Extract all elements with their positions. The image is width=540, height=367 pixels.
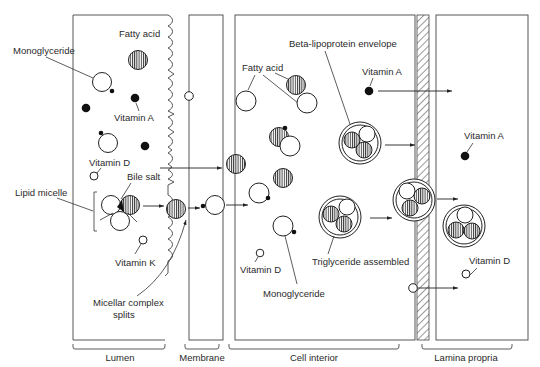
basement-membrane [417,15,429,340]
leader-line [135,244,141,254]
leader-line [467,143,473,152]
vitamin-a-molecule [82,104,91,113]
label-monoglyceride-cell: Monoglyceride [263,288,325,299]
vitamin-a-molecule [461,152,470,161]
monoglyceride-head-dot [99,131,104,136]
vitamin-d-molecule [185,92,194,101]
micelle-bracket [94,192,97,231]
monoglyceride-molecule [111,212,130,231]
monoglyceride-head-dot [201,204,206,209]
fatty-acid-molecule [274,169,293,188]
label-triglyceride-assembled: Triglyceride assembled [312,256,409,267]
leader-line [325,51,351,127]
label-monoglyceride-lumen: Monoglyceride [13,45,75,56]
leader-line [248,75,255,90]
monoglyceride-head-dot [283,126,288,131]
region-label-cell-interior: Cell interior [290,352,338,363]
label-fatty-acid-lumen: Fatty acid [119,28,160,39]
leader-line [285,236,297,284]
monoglyceride-head-dot [110,89,115,94]
vitamin-a-molecule [365,87,374,96]
membrane-region [189,15,223,340]
region-label-lamina-propria: Lamina propria [434,352,498,363]
label-bile-salt: Bile salt [127,171,161,182]
brush-border [165,15,174,276]
monoglyceride-head-dot [292,230,297,235]
leader-line [370,78,373,86]
label-vitamin-d-lumen: Vitamin D [89,157,130,168]
chylomicron [339,122,381,164]
label-vitamin-k: Vitamin K [115,257,156,268]
label-vitamin-a-lumen: Vitamin A [114,112,155,123]
label-vitamin-a-cell: Vitamin A [362,66,403,77]
label-beta-lipoprotein: Beta-lipoprotein envelope [289,38,397,49]
triglyceride-cluster [319,196,361,238]
label-vitamin-d-lamina: Vitamin D [469,255,510,266]
leader-line [328,236,334,254]
lipid-micelle [100,196,140,231]
lipid-absorption-diagram: Lumen Membrane Cell interior Lamina prop… [0,0,540,367]
label-lipid-micelle: Lipid micelle [15,187,67,198]
label-splits: splits [113,309,135,320]
chylomicron-lamina [443,205,485,247]
label-vitamin-d-cell: Vitamin D [240,264,281,275]
region-label-membrane: Membrane [179,352,224,363]
region-label-lumen: Lumen [105,352,134,363]
monoglyceride-molecule [206,196,225,215]
vitamin-a-molecule [141,142,150,151]
fatty-acid-molecule [227,155,246,174]
monoglyceride-molecule [236,91,256,111]
vitamin-d-molecule [90,172,98,180]
leader-line [46,57,93,78]
monoglyceride-molecule [297,93,317,113]
chylomicron-crossing [393,179,435,221]
leader-line [255,257,258,262]
vitamin-d-molecule [256,249,264,257]
fatty-acid-molecule [129,51,148,70]
monoglyceride-molecule [280,136,300,156]
vitamin-a-molecule [131,94,140,103]
vitamin-k-molecule [139,236,147,244]
leader-line [275,73,290,80]
label-vitamin-a-lamina: Vitamin A [464,130,505,141]
lamina-propria-region [436,15,528,340]
label-fatty-acid-cell: Fatty acid [242,62,283,73]
leader-line [57,198,93,211]
label-micellar-complex: Micellar complex [93,297,164,308]
fatty-acid-molecule [167,200,186,219]
leader-line [136,103,139,111]
monoglyceride-head-dot [266,196,271,201]
leader-line [97,168,101,173]
monoglyceride-molecule [249,183,269,203]
fatty-acid-molecule [287,76,306,95]
monoglyceride-molecule [93,73,112,92]
vitamin-d-molecule [409,284,418,293]
monoglyceride-molecule [99,134,118,153]
monoglyceride-molecule [273,216,293,236]
vitamin-d-molecule [462,270,470,278]
region-braces [73,344,512,349]
